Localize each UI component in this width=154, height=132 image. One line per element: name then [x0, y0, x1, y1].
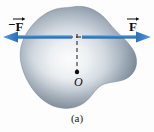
force-label-left: −F: [8, 16, 23, 33]
vector-symbol-right: F: [129, 16, 137, 33]
origin-point: [75, 70, 79, 74]
figure-container: −F F O (a): [0, 0, 154, 132]
figure-caption: (a): [0, 113, 154, 124]
origin-label: O: [74, 76, 83, 88]
force-symbol-right: F: [129, 19, 137, 34]
force-symbol-left: F: [15, 19, 23, 34]
force-label-right: F: [129, 16, 137, 33]
minus-sign: −: [8, 17, 15, 32]
vector-symbol-left: F: [15, 16, 23, 33]
rigid-body-blob: [20, 6, 136, 108]
